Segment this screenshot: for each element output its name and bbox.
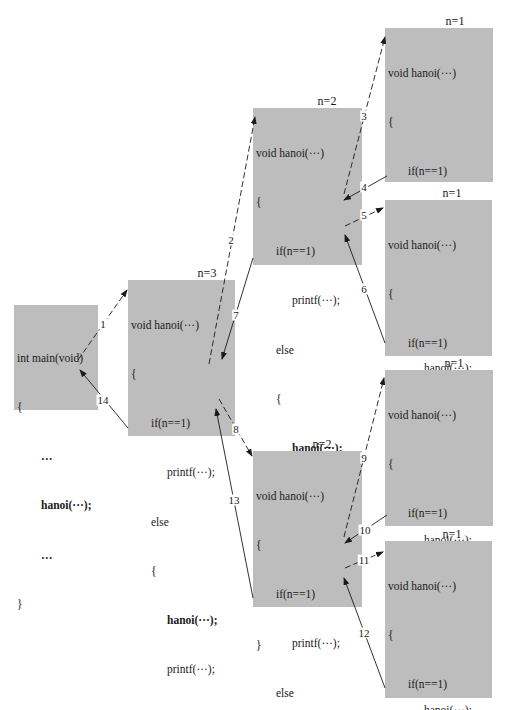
code-line: else [131,514,217,530]
code-line: int main(void) [17,350,91,366]
arrow-label-8: 8 [232,424,240,435]
code-line: { [256,194,342,210]
code-line: { [388,627,472,643]
code-line: if(n==1) [256,586,342,602]
code-line: { [388,286,472,302]
arrow-label-11: 11 [358,555,371,566]
frame-box-n3: void hanoi(···) { if(n==1) printf(···); … [128,280,235,436]
frame-box-n1-d: void hanoi(···) { if(n==1) printf(···); … [385,541,492,698]
code-line-hanoi-call: hanoi(···); [17,497,91,513]
frame-label-n2-top: n=2 [318,94,337,109]
code-line: if(n==1) [388,505,472,521]
frame-label-n1-d: n=1 [443,527,462,542]
code-line: if(n==1) [388,163,472,179]
arrow-label-5: 5 [360,210,368,221]
code-line: { [17,399,91,415]
arrow-label-14: 14 [97,395,110,406]
frame-box-n2-top: void hanoi(···) { if(n==1) printf(···); … [253,108,362,265]
code-line: { [256,391,342,407]
code-line: if(n==1) [388,676,472,692]
code-line: printf(···); [131,464,217,480]
arrow-label-9: 9 [360,453,368,464]
code-line: void hanoi(···) [388,407,472,423]
frame-box-n1-c: void hanoi(···) { if(n==1) printf(···); … [385,370,493,526]
arrow-label-2: 2 [227,235,235,246]
arrow-label-6: 6 [360,284,368,295]
code-line: void hanoi(···) [256,145,342,161]
code-line: if(n==1) [131,415,217,431]
code-line: else [256,342,342,358]
code-line: printf(···); [131,661,217,677]
code-line: void hanoi(···) [388,578,472,594]
code-line-hanoi-call: hanoi(···); [131,612,217,628]
frame-label-n2-bottom: n=2 [313,437,332,452]
frame-label-n3: n=3 [198,266,217,281]
arrow-label-3: 3 [360,111,368,122]
arrow-label-7: 7 [232,310,240,321]
code-line: { [388,456,472,472]
frame-box-n1-b: void hanoi(···) { if(n==1) printf(···); … [385,200,492,356]
frame-box-n1-a: void hanoi(···) { if(n==1) printf(···); … [385,28,493,182]
frame-box-n2-bottom: void hanoi(···) { if(n==1) printf(···); … [253,451,362,607]
arrow-label-13: 13 [228,495,241,506]
code-line: { [256,537,342,553]
arrow-label-4: 4 [360,182,368,193]
code-line: if(n==1) [388,335,472,351]
code-line: void hanoi(···) [256,488,342,504]
code-line: printf(···); [256,292,342,308]
code-line: … [17,547,91,563]
code-line: else [256,685,342,701]
code-line: { [131,563,217,579]
frame-label-n1-b: n=1 [443,186,462,201]
code-line: printf(···); [256,635,342,651]
code-line: … [17,448,91,464]
arrow-label-10: 10 [359,525,372,536]
code-line: if(n==1) [256,243,342,259]
code-line: void hanoi(···) [388,237,472,253]
arrow-label-1: 1 [99,319,107,330]
main-function-box: int main(void) { … hanoi(···); … } [14,305,98,410]
code-line: void hanoi(···) [131,317,217,333]
code-line: void hanoi(···) [388,65,472,81]
code-line: } [17,596,91,612]
arrow-label-12: 12 [358,628,371,639]
frame-label-n1-c: n=1 [445,356,464,371]
code-line: { [388,114,472,130]
frame-label-n1-a: n=1 [446,14,465,29]
code-line: { [131,366,217,382]
